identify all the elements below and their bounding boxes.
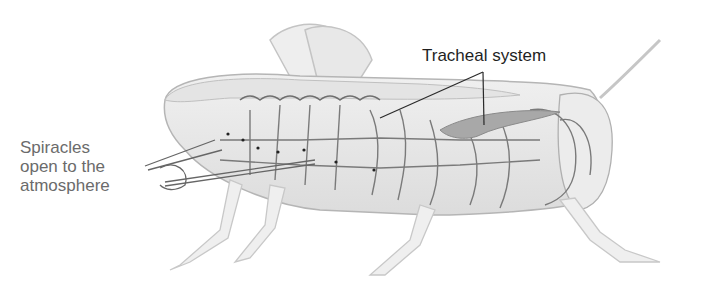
spiracles-label: Spiracles open to the atmosphere <box>20 138 140 195</box>
tracheal-system-label: Tracheal system <box>422 46 546 65</box>
spiracles-label-line-3: atmosphere <box>20 176 140 195</box>
spiracles-label-line-2: open to the <box>20 157 140 176</box>
diagram-canvas: Tracheal system Spiracles open to the at… <box>0 0 701 296</box>
spiracles-label-line-1: Spiracles <box>20 138 140 157</box>
